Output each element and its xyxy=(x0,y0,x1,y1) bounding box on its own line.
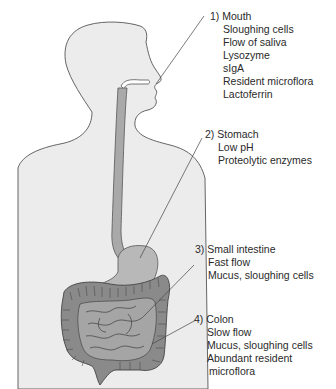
label-colon-item: Slow flow xyxy=(194,326,313,339)
label-colon: 4) Colon Slow flow Mucus, sloughing cell… xyxy=(194,313,313,378)
label-stomach-title: 2) Stomach xyxy=(205,128,312,141)
label-mouth-item: Lysozyme xyxy=(210,49,313,62)
label-colon-item: microflora xyxy=(194,365,313,378)
label-stomach: 2) Stomach Low pH Proteolytic enzymes xyxy=(205,128,312,167)
label-stomach-item: Low pH xyxy=(205,141,312,154)
label-mouth-title: 1) Mouth xyxy=(210,10,313,23)
label-mouth-item: Sloughing cells xyxy=(210,23,313,36)
label-colon-item: Abundant resident xyxy=(194,352,313,365)
label-mouth-item: sIgA xyxy=(210,62,313,75)
label-colon-item: Mucus, sloughing cells xyxy=(194,339,313,352)
label-mouth: 1) Mouth Sloughing cells Flow of saliva … xyxy=(210,10,313,101)
label-mouth-item: Lactoferrin xyxy=(210,88,313,101)
label-colon-title: 4) Colon xyxy=(194,313,313,326)
small-intestine xyxy=(78,298,157,361)
label-small-intestine-item: Mucus, sloughing cells xyxy=(195,269,314,282)
label-stomach-item: Proteolytic enzymes xyxy=(205,154,312,167)
label-small-intestine-item: Fast flow xyxy=(195,256,314,269)
label-mouth-item: Resident microflora xyxy=(210,75,313,88)
leader-line-mouth xyxy=(156,16,204,84)
label-small-intestine-title: 3) Small intestine xyxy=(195,243,314,256)
label-small-intestine: 3) Small intestine Fast flow Mucus, slou… xyxy=(195,243,314,282)
label-mouth-item: Flow of saliva xyxy=(210,36,313,49)
